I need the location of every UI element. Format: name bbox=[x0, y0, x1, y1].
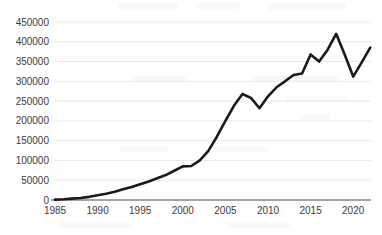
chart-container: 0500001000001500002000002500003000003500… bbox=[0, 0, 382, 235]
y-axis-labels-group: 0500001000001500002000002500003000003500… bbox=[16, 17, 50, 206]
x-axis-tick-label: 2020 bbox=[342, 205, 365, 216]
x-axis-tick-label: 1990 bbox=[86, 205, 109, 216]
x-axis-tick-label: 1985 bbox=[44, 205, 67, 216]
gridlines-group bbox=[54, 22, 371, 180]
data-series-line bbox=[55, 34, 370, 200]
x-axis-tick-label: 2010 bbox=[257, 205, 280, 216]
y-axis-tick-label: 0 bbox=[43, 195, 49, 206]
y-axis-tick-label: 400000 bbox=[16, 36, 50, 47]
y-axis-tick-label: 300000 bbox=[16, 76, 50, 87]
x-axis-tick-label: 2005 bbox=[214, 205, 237, 216]
y-axis-tick-label: 150000 bbox=[16, 135, 50, 146]
y-axis-tick-label: 200000 bbox=[16, 115, 50, 126]
line-chart-plot: 0500001000001500002000002500003000003500… bbox=[0, 0, 382, 235]
y-axis-tick-label: 350000 bbox=[16, 56, 50, 67]
x-axis-labels-group: 19851990199520002005201020152020 bbox=[44, 205, 365, 216]
y-axis-tick-label: 50000 bbox=[21, 175, 49, 186]
y-axis-tick-label: 450000 bbox=[16, 17, 50, 28]
x-axis-tick-label: 2015 bbox=[299, 205, 322, 216]
x-axis-tick-label: 1995 bbox=[129, 205, 152, 216]
y-axis-tick-label: 100000 bbox=[16, 155, 50, 166]
y-axis-tick-label: 250000 bbox=[16, 96, 50, 107]
x-axis-tick-label: 2000 bbox=[172, 205, 195, 216]
